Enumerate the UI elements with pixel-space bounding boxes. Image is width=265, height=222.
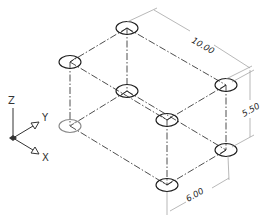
hole-bottom-back [116,85,138,98]
edge-top-front-left [70,62,167,120]
dimension-width: 6.00 [167,156,229,215]
y-axis [13,126,33,138]
dimension-width-label: 6.00 [184,186,205,204]
x-label: X [42,152,49,163]
x-axis [13,138,33,150]
edge-top-back-right [127,28,226,85]
edge-bottom-front-right [167,150,226,185]
dimension-length: 10.00 [127,8,252,79]
edge-top-front-right [167,85,226,120]
wireframe-edges [70,28,226,185]
y-arrow-icon [31,122,39,129]
edge-bottom-back-right [127,91,226,150]
edge-top-back-left [70,28,127,62]
drawing-canvas: 10.00 5.50 6.00 Z Y X [0,0,265,222]
dimension-length-label: 10.00 [190,35,216,56]
dimension-height-label: 5.50 [240,101,261,119]
edge-bottom-front-left [70,126,167,185]
dimension-height: 5.50 [232,70,261,147]
ucs-icon: Z Y X [8,95,49,163]
z-label: Z [8,95,15,106]
x-arrow-icon [31,147,39,154]
y-label: Y [41,112,49,123]
edge-bottom-back-left [70,91,127,126]
